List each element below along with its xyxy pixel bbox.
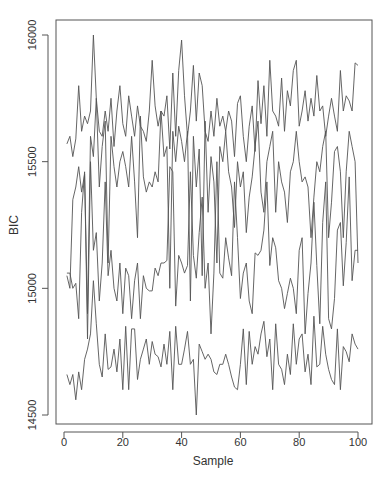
y-axis-label: BIC (7, 215, 21, 235)
x-tick-label: 60 (234, 436, 246, 448)
x-tick-label: 80 (293, 436, 305, 448)
y-tick-label: 14500 (26, 400, 38, 431)
series-lines (67, 35, 358, 415)
y-tick-label: 16000 (26, 20, 38, 51)
y-tick-label: 15500 (26, 146, 38, 177)
y-axis: 14500150001550016000 (26, 20, 48, 431)
x-tick-label: 40 (175, 436, 187, 448)
x-tick-label: 0 (61, 436, 67, 448)
x-tick-label: 20 (117, 436, 129, 448)
y-tick-label: 15000 (26, 273, 38, 304)
x-tick-label: 100 (349, 436, 367, 448)
x-axis-label: Sample (193, 454, 234, 468)
x-axis: 020406080100 (61, 432, 367, 448)
bic-trace-chart: 14500150001550016000 020406080100 Sample… (0, 0, 383, 477)
